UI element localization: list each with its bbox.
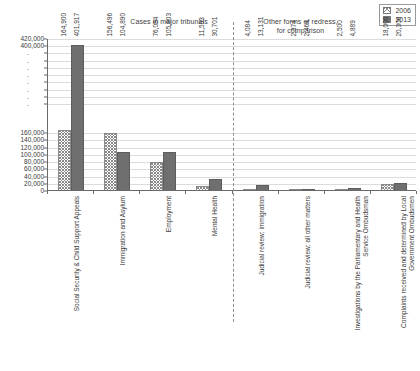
x-axis-category-label: Complaints received and determined by Lo… [400, 196, 415, 328]
bar-2013-4[interactable]: 13,131 [256, 39, 269, 190]
panel-title-right-line2: for comparison [277, 27, 325, 34]
bar-rect [117, 152, 130, 190]
bar-rect [209, 179, 222, 190]
bar-value-label: 11,553 [199, 17, 206, 36]
bar-rect [71, 45, 84, 190]
legend-item-2006[interactable]: 2006 [383, 7, 411, 14]
bar-value-label: 104,890 [120, 13, 127, 37]
bar-value-label: 2,500 [337, 20, 344, 36]
x-axis-tick-mark [47, 191, 48, 194]
x-axis-tick-mark [416, 191, 417, 194]
bar-2013-6[interactable]: 4,889 [348, 39, 361, 190]
bar-value-label: 18,000 [384, 16, 391, 36]
x-axis-category-label: Mental Health [211, 196, 219, 236]
bar-group: 18,00020,306 [371, 39, 417, 190]
bar-rect [104, 133, 117, 190]
bar-rect [196, 186, 209, 190]
bar-2006-0[interactable]: 164,900 [58, 39, 71, 190]
bar-rect [394, 183, 407, 190]
x-axis-tick-mark [324, 191, 325, 194]
bar-rect [58, 130, 71, 190]
x-axis-tick-mark [370, 191, 371, 194]
bars-layer: 164,900401,917156,496104,89076,084105,80… [48, 39, 416, 190]
bar-group: 164,900401,917 [48, 39, 94, 190]
panel-title-right-line1: Other forms of redress, [263, 18, 337, 25]
bar-2006-4[interactable]: 4,084 [243, 39, 256, 190]
y-axis-tick-label: . [27, 101, 29, 108]
x-axis-category-label: Investigations by the Parliamentary and … [354, 196, 369, 330]
bar-value-label: 20,306 [397, 16, 404, 36]
bar-2006-3[interactable]: 11,553 [196, 39, 209, 190]
y-axis: 420,000400,000........160,000140,000120,… [0, 39, 47, 191]
bar-value-label: 401,917 [74, 13, 81, 37]
x-axis-tick-mark [278, 191, 279, 194]
x-axis-category-label: Judicial review: immigration [258, 196, 266, 275]
bar-2013-5[interactable]: 2,464 [302, 39, 315, 190]
bar-value-label: 164,900 [61, 13, 68, 37]
chart-container: Cases in major tribunals Other forms of … [0, 0, 420, 371]
bar-group: 2,5004,889 [325, 39, 371, 190]
bar-group: 76,084105,803 [140, 39, 186, 190]
bar-value-label: 2,374 [291, 20, 298, 36]
bar-value-label: 30,701 [212, 16, 219, 36]
bar-rect [150, 162, 163, 190]
bar-rect [289, 189, 302, 190]
bar-2013-7[interactable]: 20,306 [394, 39, 407, 190]
x-axis: Social Security & Child Support AppealsI… [47, 191, 416, 371]
bar-2013-0[interactable]: 401,917 [71, 39, 84, 190]
x-axis-tick-mark [232, 191, 233, 194]
bar-value-label: 76,084 [153, 16, 160, 36]
bar-value-label: 13,131 [258, 16, 265, 36]
bar-group: 4,08413,131 [233, 39, 279, 190]
bar-2006-7[interactable]: 18,000 [381, 39, 394, 190]
x-axis-tick-mark [185, 191, 186, 194]
bar-rect [256, 185, 269, 190]
bar-value-label: 105,803 [166, 13, 173, 37]
bar-2013-1[interactable]: 104,890 [117, 39, 130, 190]
bar-2013-3[interactable]: 30,701 [209, 39, 222, 190]
bar-2006-5[interactable]: 2,374 [289, 39, 302, 190]
bar-value-label: 156,496 [107, 13, 114, 37]
bar-2006-2[interactable]: 76,084 [150, 39, 163, 190]
bar-group: 11,55330,701 [186, 39, 232, 190]
bar-rect [163, 152, 176, 190]
bar-group: 2,3742,464 [279, 39, 325, 190]
bar-2006-1[interactable]: 156,496 [104, 39, 117, 190]
bar-value-label: 4,084 [245, 20, 252, 36]
bar-2006-6[interactable]: 2,500 [335, 39, 348, 190]
hatched-swatch [383, 7, 391, 14]
bar-2013-2[interactable]: 105,803 [163, 39, 176, 190]
x-axis-category-label: Immigration and Asylum [119, 196, 127, 265]
bar-value-label: 4,889 [350, 20, 357, 36]
bar-value-label: 2,464 [304, 20, 311, 36]
x-axis-category-label: Social Security & Child Support Appeals [73, 196, 81, 311]
y-axis-tick-label: 400,000 [21, 43, 45, 50]
legend-label: 2006 [395, 7, 411, 14]
plot-area: 164,900401,917156,496104,89076,084105,80… [47, 39, 416, 191]
x-axis-category-label: Employment [165, 196, 173, 232]
bar-rect [302, 189, 315, 190]
x-axis-category-label: Judicial review: all other matters [304, 196, 312, 288]
bar-group: 156,496104,890 [94, 39, 140, 190]
bar-rect [335, 189, 348, 190]
x-axis-tick-mark [139, 191, 140, 194]
bar-rect [243, 189, 256, 190]
bar-rect [348, 188, 361, 190]
x-axis-tick-mark [93, 191, 94, 194]
bar-rect [381, 184, 394, 191]
